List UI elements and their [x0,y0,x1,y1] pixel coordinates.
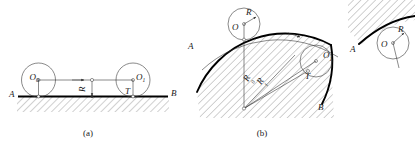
panel-a: O 0 O 1 T R A B (a) [8,63,177,138]
label-center-c: O [381,39,388,49]
label-arc-end-b: B [318,102,324,112]
engineering-figure-svg: O 0 O 1 T R A B (a) [0,0,415,144]
ground-hatching-a [17,97,169,112]
label-arc-start-c: A [349,44,356,54]
contact-node-left-b [243,38,246,41]
label-center-left-sub-a: 0 [36,77,39,83]
label-radius-c: R [397,24,404,34]
label-center-right-sub-a: 1 [143,77,146,83]
dimension-base-node-a [91,95,94,98]
radius-arrow-left-b [244,17,256,24]
label-arc-start-b: A [187,41,194,51]
label-line-end-a: B [171,88,177,98]
caption-a: (a) [83,128,93,138]
panel-c-cropped: R O A [348,0,415,68]
arc-center-node-b [242,107,245,110]
caption-b: (b) [257,128,268,138]
label-line-start-a: A [8,89,15,99]
label-tangent-point-a: T [125,86,131,96]
label-radius-a: R [77,86,87,93]
label-center-left-b: O [232,22,239,32]
contact-node-left-a [37,95,40,98]
arc-hatching-c [348,0,415,44]
radius-arrow-c [393,33,404,43]
radius-line-c [393,43,399,68]
panel-b: R O O 1 T R 0 R 1 A B (b) [187,7,340,138]
locus-node-a [90,78,93,81]
label-radius-small-b: R [245,7,252,17]
label-center-right-sub-b: 1 [330,56,333,62]
contact-node-right-a [132,95,135,98]
figure-root: O 0 O 1 T R A B (a) [0,0,415,144]
